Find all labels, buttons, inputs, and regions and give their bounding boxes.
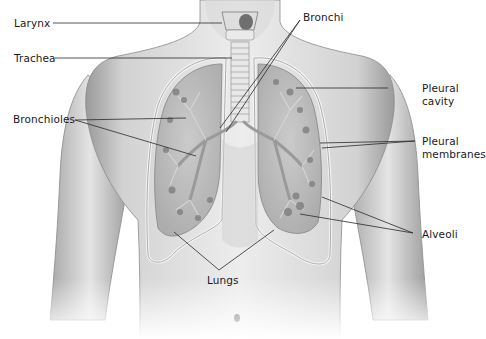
label-pleural-membranes: Pleural membranes [422,135,486,161]
label-bronchioles: Bronchioles [13,113,75,126]
label-pleural-cavity: Pleural cavity [422,82,459,108]
label-alveoli: Alveoli [422,228,458,241]
label-trachea: Trachea [14,52,56,65]
label-lungs: Lungs [207,274,239,287]
label-larynx: Larynx [14,17,50,30]
label-bronchi: Bronchi [303,11,343,24]
